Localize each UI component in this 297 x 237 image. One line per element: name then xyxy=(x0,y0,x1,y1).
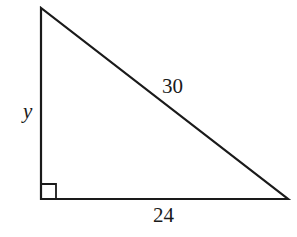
hypotenuse-label: 30 xyxy=(162,76,183,97)
horizontal-leg-label: 24 xyxy=(153,205,174,226)
vertical-leg-label: y xyxy=(23,101,32,122)
triangle-figure xyxy=(0,0,297,237)
right-angle-marker xyxy=(41,184,56,199)
right-triangle xyxy=(41,8,288,199)
